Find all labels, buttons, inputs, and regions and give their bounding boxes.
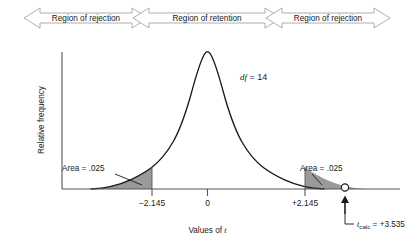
area-label-left: Area = .025: [62, 164, 105, 173]
tick-label-upper-critical: +2.145: [292, 198, 319, 208]
tcalc-arrow-head: [341, 196, 349, 204]
tick-label-lower-critical: −2.145: [139, 198, 166, 208]
band-label-right: Region of rejection: [294, 14, 363, 23]
tcalc-up-arrow-icon: [341, 196, 349, 215]
tcalc-subscript: calc: [359, 223, 370, 230]
x-axis-label-prefix: Values of: [188, 226, 224, 235]
tcalc-label: tcalc = +3.535: [357, 220, 405, 230]
tcalc-value: = +3.535: [370, 220, 405, 229]
df-annotation: df = 14: [240, 72, 267, 82]
area-label-right: Area = .025: [300, 164, 343, 173]
tcalc-elbow-leader: [345, 214, 354, 224]
axes: [62, 52, 400, 196]
tcalc-point-marker: [341, 184, 348, 191]
y-axis-label: Relative frequency: [37, 85, 46, 154]
x-tick-labels: −2.145 0 +2.145: [139, 198, 319, 208]
band-label-left: Region of rejection: [52, 14, 121, 23]
x-axis-label-symbol: t: [224, 226, 227, 235]
t-distribution-figure: Region of rejection Region of retention …: [0, 0, 414, 248]
t-distribution-curve: [91, 52, 324, 189]
band-label-middle: Region of retention: [172, 14, 242, 23]
x-axis-label: Values of t: [188, 226, 227, 235]
tick-label-zero: 0: [205, 198, 210, 208]
band-region-of-rejection-left: Region of rejection: [24, 8, 148, 28]
band-region-of-rejection-right: Region of rejection: [266, 8, 390, 28]
tcalc-marker-group: tcalc = +3.535: [341, 184, 405, 230]
df-value: = 14: [247, 72, 267, 82]
region-bands: Region of rejection Region of retention …: [24, 8, 390, 28]
figure-canvas: Region of rejection Region of retention …: [0, 0, 414, 248]
band-region-of-retention: Region of retention: [133, 8, 281, 28]
